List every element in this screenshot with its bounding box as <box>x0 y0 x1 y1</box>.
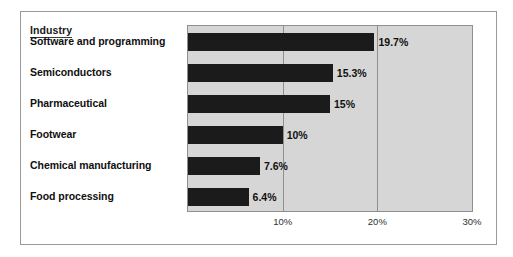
gridline-10% <box>283 26 284 211</box>
bar <box>188 126 283 144</box>
bar <box>188 157 260 175</box>
x-tick-30%: 30% <box>462 216 481 227</box>
bar-value-label: 10% <box>287 129 308 141</box>
category-label: Food processing <box>30 190 114 202</box>
bar-value-label: 7.6% <box>264 160 288 172</box>
bar-value-label: 6.4% <box>253 191 277 203</box>
bar <box>188 64 333 82</box>
gridline-20% <box>377 26 378 211</box>
x-tick-20%: 20% <box>368 216 387 227</box>
category-label: Semiconductors <box>30 66 112 78</box>
category-label: Software and programming <box>30 35 165 47</box>
bar-value-label: 19.7% <box>378 36 408 48</box>
chart-figure: Industry Software and programmingSemicon… <box>20 11 497 245</box>
category-label: Pharmaceutical <box>30 97 107 109</box>
bar <box>188 95 330 113</box>
category-label: Footwear <box>30 128 76 140</box>
plot-area: 19.7%15.3%15%10%7.6%6.4% <box>187 25 473 212</box>
bar-value-label: 15.3% <box>337 67 367 79</box>
bar-value-label: 15% <box>334 98 355 110</box>
bar <box>188 33 374 51</box>
bar <box>188 188 249 206</box>
x-tick-10%: 10% <box>273 216 292 227</box>
category-label: Chemical manufacturing <box>30 159 151 171</box>
category-axis-labels: Industry Software and programmingSemicon… <box>30 12 187 246</box>
